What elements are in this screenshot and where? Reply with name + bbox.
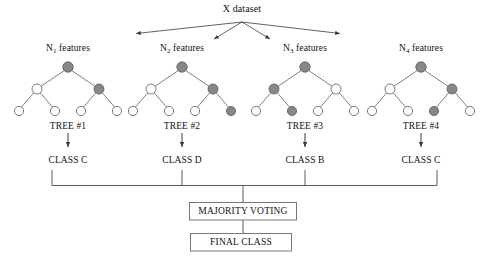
diagram-canvas	[0, 0, 482, 264]
tree-2-leaf-3	[190, 106, 199, 115]
tree-3-features-label: N3 features	[283, 43, 327, 53]
tree-4-graph	[367, 62, 474, 116]
majority-voting-label: MAJORITY VOTING	[190, 203, 297, 221]
tree-2-leaf-1	[128, 106, 137, 115]
tree-2-root-node	[177, 62, 187, 72]
tree-3-leaf-1	[251, 106, 260, 115]
tree-3-left-node	[269, 84, 279, 94]
tree-1-leaf-2	[50, 106, 59, 115]
tree-2-right-node	[208, 84, 218, 94]
tree-1-leaf-1	[14, 106, 23, 115]
tree-2-leaf-2	[164, 106, 173, 115]
tree-2-graph	[128, 62, 235, 116]
dataset-title: X dataset	[223, 3, 261, 14]
tree-1-right-node	[94, 84, 104, 94]
tree-1-leaf-4	[112, 106, 121, 115]
tree-3-leaf-3	[313, 106, 322, 115]
dataset-fanout-arrows	[136, 22, 340, 39]
tree-2-label: TREE #2	[164, 121, 200, 131]
tree-4-label: TREE #4	[403, 121, 439, 131]
tree-1-features-label: N1 features	[46, 43, 90, 53]
tree-2-leaf-4	[226, 106, 235, 115]
tree-4-root-node	[416, 62, 426, 72]
random-forest-diagram: X dataset N1 features N2 features N3 fea…	[0, 0, 482, 264]
tree-2-left-node	[146, 84, 156, 94]
tree-3-root-node	[300, 62, 310, 72]
tree-1-graph	[14, 62, 121, 116]
tree-2-features-label: N2 features	[160, 43, 204, 53]
tree-3-right-node	[331, 84, 341, 94]
tree-4-leaf-3	[429, 106, 438, 115]
tree-3-class-label: CLASS B	[286, 155, 325, 165]
tree-4-leaf-4	[465, 106, 474, 115]
fanout-arrow-4	[242, 22, 340, 34]
tree-3-leaf-2	[287, 106, 296, 115]
tree-3-label: TREE #3	[287, 121, 323, 131]
tree-4-leaf-2	[403, 106, 412, 115]
tree-1-root-node	[63, 62, 73, 72]
tree-1-label: TREE #1	[50, 121, 86, 131]
tree-1-left-node	[32, 84, 42, 94]
tree-4-left-node	[385, 84, 395, 94]
tree-to-class-arrows	[68, 133, 421, 147]
tree-4-right-node	[447, 84, 457, 94]
final-class-label: FINAL CLASS	[191, 234, 292, 252]
tree-4-leaf-1	[367, 106, 376, 115]
tree-1-class-label: CLASS C	[49, 155, 88, 165]
tree-1-leaf-3	[76, 106, 85, 115]
tree-3-leaf-4	[349, 106, 358, 115]
tree-2-class-label: CLASS D	[162, 155, 202, 165]
tree-4-class-label: CLASS C	[402, 155, 441, 165]
tree-4-features-label: N4 features	[399, 43, 443, 53]
tree-3-graph	[251, 62, 358, 116]
vote-collector-bus	[52, 170, 437, 233]
